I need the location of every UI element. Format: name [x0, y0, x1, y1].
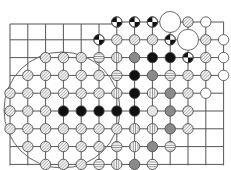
- stone-hatched[interactable]: [112, 35, 122, 45]
- stone-hatched[interactable]: [76, 141, 86, 151]
- stone-vertical[interactable]: [112, 52, 122, 62]
- stone-horizontal[interactable]: [165, 70, 175, 80]
- stone-hatched[interactable]: [76, 124, 86, 134]
- stone-gray[interactable]: [165, 124, 175, 134]
- stone-hatched[interactable]: [40, 159, 50, 169]
- stone-hatched[interactable]: [129, 35, 139, 45]
- stone-hatched[interactable]: [23, 141, 33, 151]
- stone-hatched[interactable]: [76, 88, 86, 98]
- stone-hatched[interactable]: [23, 88, 33, 98]
- stone-gray[interactable]: [165, 106, 175, 116]
- stone-gray[interactable]: [147, 141, 157, 151]
- stone-split[interactable]: [112, 17, 122, 27]
- stone-hatched[interactable]: [183, 17, 193, 27]
- stone-gray[interactable]: [165, 88, 175, 98]
- stone-hatched[interactable]: [183, 70, 193, 80]
- stone-black[interactable]: [129, 88, 139, 98]
- stone-gray[interactable]: [147, 70, 157, 80]
- stone-white[interactable]: [218, 35, 228, 45]
- stone-white[interactable]: [218, 52, 228, 62]
- stone-hatched[interactable]: [23, 106, 33, 116]
- stone-hatched[interactable]: [40, 52, 50, 62]
- stone-vertical[interactable]: [129, 141, 139, 151]
- stone-black[interactable]: [129, 70, 139, 80]
- stone-gray[interactable]: [129, 159, 139, 169]
- stone-white[interactable]: [218, 70, 228, 80]
- stone-hatched[interactable]: [40, 106, 50, 116]
- game-board: [0, 0, 231, 170]
- stone-hatched[interactable]: [58, 88, 68, 98]
- stone-hatched[interactable]: [183, 124, 193, 134]
- stone-hatched[interactable]: [5, 88, 15, 98]
- stone-hatched[interactable]: [40, 88, 50, 98]
- stone-vertical[interactable]: [147, 124, 157, 134]
- stone-vertical[interactable]: [112, 159, 122, 169]
- stone-horizontal[interactable]: [112, 70, 122, 80]
- stone-vertical[interactable]: [147, 88, 157, 98]
- stone-split[interactable]: [129, 17, 139, 27]
- stone-light[interactable]: [147, 106, 157, 116]
- stone-hatched[interactable]: [201, 52, 211, 62]
- stone-hatched[interactable]: [23, 124, 33, 134]
- stone-hatched[interactable]: [40, 124, 50, 134]
- stone-hatched[interactable]: [76, 52, 86, 62]
- stone-white[interactable]: [201, 88, 211, 98]
- stone-black[interactable]: [58, 106, 68, 116]
- stone-hatched[interactable]: [94, 70, 104, 80]
- stone-hatched[interactable]: [58, 52, 68, 62]
- stone-hatched[interactable]: [183, 106, 193, 116]
- stone-black[interactable]: [165, 52, 175, 62]
- stone-hatched[interactable]: [183, 88, 193, 98]
- stone-black[interactable]: [147, 52, 157, 62]
- stone-hatched[interactable]: [58, 159, 68, 169]
- stone-horizontal[interactable]: [94, 52, 104, 62]
- stone-hatched[interactable]: [58, 70, 68, 80]
- stone-vertical[interactable]: [112, 88, 122, 98]
- stone-white[interactable]: [201, 17, 211, 27]
- stone-black[interactable]: [94, 106, 104, 116]
- stone-hatched[interactable]: [94, 141, 104, 151]
- stone-hatched[interactable]: [58, 124, 68, 134]
- stone-hatched[interactable]: [94, 124, 104, 134]
- stone-hatched[interactable]: [5, 106, 15, 116]
- stone-hatched[interactable]: [112, 124, 122, 134]
- stone-horizontal[interactable]: [112, 141, 122, 151]
- stone-hatched[interactable]: [58, 141, 68, 151]
- stone-gray[interactable]: [129, 52, 139, 62]
- stone-horizontal[interactable]: [94, 159, 104, 169]
- stone-hatched[interactable]: [147, 35, 157, 45]
- stone-hatched[interactable]: [5, 124, 15, 134]
- stone-hatched[interactable]: [76, 70, 86, 80]
- stone-split[interactable]: [165, 35, 175, 45]
- stone-white[interactable]: [178, 29, 199, 50]
- stone-split[interactable]: [147, 17, 157, 27]
- stone-black[interactable]: [76, 106, 86, 116]
- stone-hatched[interactable]: [201, 35, 211, 45]
- stone-horizontal[interactable]: [147, 159, 157, 169]
- stone-hatched[interactable]: [94, 88, 104, 98]
- stone-horizontal[interactable]: [165, 141, 175, 151]
- stone-black[interactable]: [112, 106, 122, 116]
- stone-hatched[interactable]: [201, 70, 211, 80]
- stones-layer: [5, 12, 229, 170]
- stone-split[interactable]: [183, 52, 193, 62]
- stone-hatched[interactable]: [40, 70, 50, 80]
- stone-hatched[interactable]: [40, 141, 50, 151]
- stone-split[interactable]: [94, 35, 104, 45]
- stone-hatched[interactable]: [23, 70, 33, 80]
- stone-black[interactable]: [129, 106, 139, 116]
- stone-hatched[interactable]: [76, 159, 86, 169]
- stone-white[interactable]: [160, 12, 181, 33]
- stone-vertical[interactable]: [129, 124, 139, 134]
